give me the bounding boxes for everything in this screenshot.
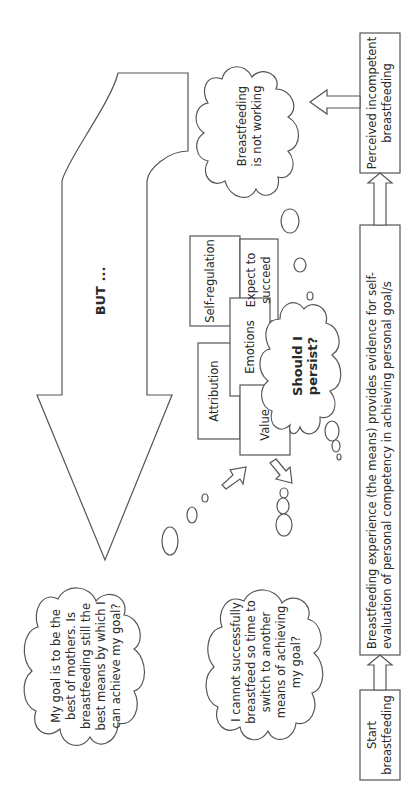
expect-box-label: Expect to succeed: [240, 239, 278, 321]
thought-bubble: [187, 507, 197, 523]
cloud-switch-label: I cannot successfully breastfeed so time…: [218, 599, 314, 725]
arrow-experience-to-perceived: [368, 173, 392, 225]
start-box-label: Start breastfeeding: [360, 690, 400, 780]
arrow-start-to-experience: [368, 655, 392, 690]
thought-bubble: [307, 292, 313, 300]
diagram-stage: Start breastfeeding Breastfeeding experi…: [0, 0, 416, 801]
but-arrow-label: BUT ...: [80, 251, 120, 331]
perceived-box-label: Perceived incompetent breastfeeding: [360, 33, 400, 173]
arrow-value-to-switch: [270, 459, 292, 483]
cloud-goal-label: My goal is to be the best of mothers. Is…: [36, 601, 136, 731]
thought-bubble: [294, 258, 306, 272]
self-regulation-box-label: Self-regulation: [190, 236, 230, 326]
thought-bubble: [280, 488, 288, 498]
thought-bubble: [162, 527, 178, 555]
arrow-perceived-to-cloud: [310, 90, 360, 114]
experience-box-label: Breastfeeding experience (the means) pro…: [360, 225, 400, 655]
cloud-not-working-label: Breastfeeding is not working: [220, 81, 280, 171]
value-box-label: Value: [240, 395, 290, 455]
thought-bubble: [337, 454, 341, 460]
attribution-box-label: Attribution: [198, 343, 230, 439]
arrow-goal-to-factors: [222, 467, 246, 489]
thought-bubble: [202, 494, 208, 502]
thought-bubble: [281, 209, 299, 233]
thought-bubble: [276, 514, 292, 536]
thought-bubble: [277, 498, 289, 514]
thought-bubble: [332, 440, 340, 452]
thought-bubble: [325, 421, 339, 441]
